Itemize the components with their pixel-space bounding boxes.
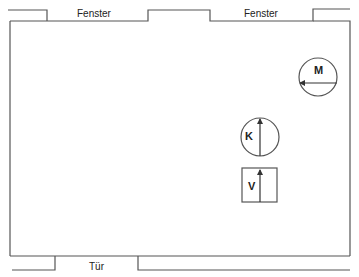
symbol-m-label: M <box>314 64 323 76</box>
door-label: Tür <box>89 261 104 272</box>
door-frame-right <box>138 256 350 270</box>
top-wall <box>8 9 350 256</box>
window-frame-left-stub <box>8 10 47 21</box>
symbol-k-label: K <box>245 130 253 142</box>
door-frame-left <box>12 256 55 270</box>
window-label: Fenster <box>244 8 278 19</box>
right-wall <box>313 21 350 256</box>
symbol-v-label: V <box>248 180 255 192</box>
top-wall-line <box>10 9 350 21</box>
window-label: Fenster <box>77 8 111 19</box>
floorplan-diagram <box>0 0 359 277</box>
